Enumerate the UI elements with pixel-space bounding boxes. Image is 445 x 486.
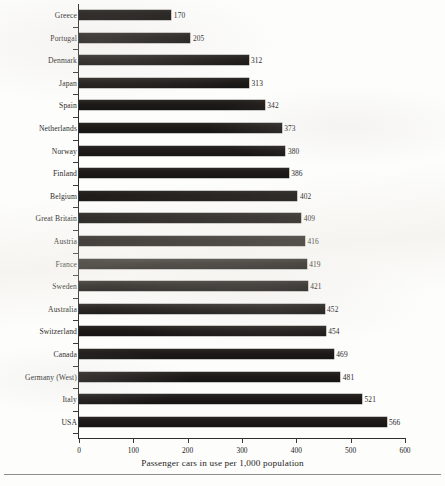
category-label: Great Britain (36, 214, 77, 223)
bar (79, 10, 171, 20)
category-label: Australia (48, 304, 77, 313)
category-label: Greece (55, 11, 77, 20)
bar (79, 417, 387, 427)
bar-value-label: 454 (328, 327, 339, 336)
bar-value-label: 419 (309, 259, 320, 268)
bar-value-label: 421 (310, 282, 321, 291)
y-axis-tick (73, 411, 79, 412)
bar-row: Portugal205 (0, 27, 445, 49)
bar-value-label: 313 (252, 78, 263, 87)
bar-value-label: 481 (343, 372, 354, 381)
y-axis-tick (73, 230, 79, 231)
x-axis-tick-label: 500 (345, 446, 356, 455)
bar-value-label: 312 (251, 56, 262, 65)
bar (79, 100, 265, 110)
bar-value-label: 380 (288, 146, 299, 155)
category-label: Norway (52, 146, 77, 155)
bar-row: Norway380 (0, 140, 445, 162)
x-axis-tick-label: 300 (236, 446, 247, 455)
bar-value-label: 386 (291, 169, 302, 178)
x-axis-tick (188, 438, 189, 443)
category-label: Switzerland (39, 327, 77, 336)
y-axis-tick (73, 275, 79, 276)
y-axis-tick (73, 162, 79, 163)
bar-row: Finland386 (0, 162, 445, 184)
bar-value-label: 521 (365, 395, 376, 404)
y-axis-tick (73, 253, 79, 254)
bar (79, 304, 325, 314)
y-axis-tick (73, 185, 79, 186)
category-label: Austria (54, 237, 77, 246)
bar-value-label: 342 (267, 101, 278, 110)
y-axis-tick (73, 388, 79, 389)
y-axis-tick (73, 343, 79, 344)
y-axis-tick (73, 49, 79, 50)
bottom-divider (4, 474, 441, 475)
y-axis-tick (73, 207, 79, 208)
bar-row: Spain342 (0, 94, 445, 116)
bar-row: Germany (West)481 (0, 366, 445, 388)
x-axis-title: Passenger cars in use per 1,000 populati… (0, 458, 445, 468)
category-label: Belgium (50, 191, 77, 200)
y-axis-line (78, 4, 79, 438)
y-axis-tick (73, 320, 79, 321)
category-label: Denmark (48, 56, 77, 65)
bar-value-label: 402 (300, 191, 311, 200)
bar-row: Australia452 (0, 298, 445, 320)
bar-row: USA566 (0, 411, 445, 433)
bar-row: Great Britain409 (0, 207, 445, 229)
bar (79, 168, 289, 178)
y-axis-tick (73, 117, 79, 118)
bar (79, 281, 308, 291)
bar-value-label: 566 (389, 417, 400, 426)
bar-row: Netherlands373 (0, 117, 445, 139)
x-axis-tick-label: 400 (291, 446, 302, 455)
y-axis-tick (73, 94, 79, 95)
bar-row: Belgium402 (0, 185, 445, 207)
bar-row: Italy521 (0, 388, 445, 410)
bar (79, 33, 190, 43)
category-label: France (56, 259, 77, 268)
x-axis-tick (296, 438, 297, 443)
category-label: Finland (53, 169, 77, 178)
x-axis-tick-label: 0 (77, 446, 81, 455)
x-axis-tick (405, 438, 406, 443)
bar-row: Denmark312 (0, 49, 445, 71)
bar-value-label: 452 (327, 304, 338, 313)
bar (79, 372, 340, 382)
y-axis-tick (73, 140, 79, 141)
bar (79, 326, 326, 336)
x-axis-tick (79, 438, 80, 443)
bar-value-label: 469 (336, 350, 347, 359)
bar (79, 191, 297, 201)
bar-value-label: 416 (308, 237, 319, 246)
bar-row: Japan313 (0, 72, 445, 94)
y-axis-tick (73, 72, 79, 73)
x-axis-tick-label: 200 (182, 446, 193, 455)
category-label: Spain (59, 101, 77, 110)
bar (79, 349, 334, 359)
bar-row: Sweden421 (0, 275, 445, 297)
category-label: USA (61, 417, 77, 426)
category-label: Portugal (50, 33, 77, 42)
bar (79, 213, 301, 223)
bar (79, 55, 249, 65)
y-axis-tick (73, 366, 79, 367)
category-label: Netherlands (39, 124, 77, 133)
bar-value-label: 205 (193, 33, 204, 42)
category-label: Japan (59, 78, 77, 87)
y-axis-tick (73, 27, 79, 28)
bar (79, 123, 282, 133)
bar-row: Austria416 (0, 230, 445, 252)
bar-value-label: 409 (304, 214, 315, 223)
x-axis-tick-label: 100 (128, 446, 139, 455)
bar (79, 259, 307, 269)
category-label: Italy (62, 395, 77, 404)
y-axis-tick (73, 298, 79, 299)
category-label: Germany (West) (25, 372, 77, 381)
bar-row: France419 (0, 253, 445, 275)
category-label: Sweden (52, 282, 77, 291)
bar-row: Canada469 (0, 343, 445, 365)
plot-area: Greece170Portugal205Denmark312Japan313Sp… (0, 0, 445, 440)
bar (79, 394, 362, 404)
